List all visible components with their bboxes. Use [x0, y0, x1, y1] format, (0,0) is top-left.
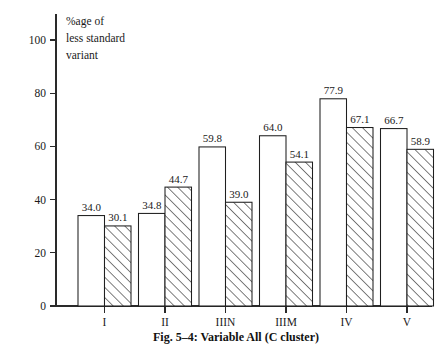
x-tick-labels: IIIIIINIIIMIVV: [103, 316, 412, 328]
bar: [78, 216, 105, 306]
bar-value-label: 64.0: [263, 121, 283, 133]
bar-value-label: 77.9: [324, 84, 344, 96]
bar-value-label: 34.0: [82, 201, 102, 213]
bar-value-label: 59.8: [203, 132, 223, 144]
bar: [320, 99, 347, 306]
y-axis-title-line: variant: [66, 49, 99, 61]
x-tick-label: IIIN: [216, 316, 236, 328]
figure-container: %age ofless standardvariant 020406080100…: [0, 0, 445, 354]
bar: [139, 213, 166, 306]
y-tick-label: 40: [35, 194, 47, 206]
bar-value-label: 67.1: [350, 113, 369, 125]
x-tick-label: IV: [340, 316, 353, 328]
y-tick-label: 80: [35, 87, 47, 99]
bar: [286, 162, 313, 306]
y-tick-label: 100: [29, 34, 47, 46]
bar-value-label: 30.1: [108, 211, 127, 223]
figure-caption: Fig. 5–4: Variable All (C cluster): [153, 330, 319, 344]
bar: [381, 129, 408, 306]
x-tick-label: II: [161, 316, 169, 328]
y-tick-label: 0: [40, 300, 46, 312]
bar: [105, 226, 132, 306]
x-tick-label: I: [103, 316, 107, 328]
x-axis: [56, 306, 432, 313]
bar: [199, 147, 226, 306]
caption-text: Fig. 5–4: Variable All (C cluster): [153, 330, 319, 344]
y-axis-title-line: less standard: [66, 32, 125, 44]
y-axis-title-line: %age of: [66, 15, 104, 28]
bar: [407, 149, 434, 306]
bar-value-label: 44.7: [169, 173, 189, 185]
y-axis-title: %age ofless standardvariant: [66, 15, 125, 61]
y-tick-label: 20: [35, 247, 47, 259]
y-tick-label: 60: [35, 140, 47, 152]
y-axis: 020406080100: [29, 14, 56, 312]
x-tick-label: V: [403, 316, 412, 328]
bar: [260, 136, 287, 306]
bar: [226, 202, 253, 306]
bar-value-label: 66.7: [384, 114, 404, 126]
bar-value-label: 34.8: [142, 199, 162, 211]
bar: [347, 128, 374, 306]
bar-value-label: 39.0: [229, 188, 249, 200]
bar-value-label: 54.1: [290, 148, 309, 160]
bars-layer: [78, 99, 434, 306]
value-labels-layer: 34.030.134.844.759.839.064.054.177.967.1…: [82, 84, 431, 223]
bar-chart: %age ofless standardvariant 020406080100…: [0, 0, 445, 354]
bar-value-label: 58.9: [411, 135, 431, 147]
bar: [165, 187, 192, 306]
x-tick-label: IIIM: [275, 316, 297, 328]
